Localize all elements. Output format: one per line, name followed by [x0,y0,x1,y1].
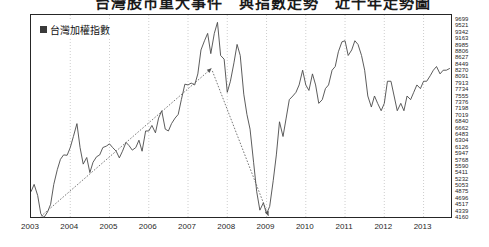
y-axis-tick: 9342 [455,29,468,35]
y-axis-tick: 8270 [455,67,468,73]
y-axis-tick: 7913 [455,80,468,86]
x-axis-labels: 2003200420052006200720082009201020112012… [0,222,489,236]
y-axis-tick: 4517 [455,201,468,207]
y-axis-tick: 5232 [455,176,468,182]
x-axis-tick: 2008 [217,222,235,232]
y-axis-tick: 8985 [455,42,468,48]
y-axis-tick: 9699 [455,16,468,22]
y-axis-tick: 6840 [455,118,468,124]
chart-title-strip: 台灣股市重大事件 與指數走勢 近十年走勢圖 [0,0,489,11]
y-axis-tick: 9521 [455,22,468,28]
x-axis-tick: 2007 [178,222,196,232]
x-axis-tick: 2006 [139,222,157,232]
y-axis-tick: 4696 [455,195,468,201]
y-axis-tick: 8627 [455,54,468,60]
y-axis-tick: 6126 [455,144,468,150]
plot-area: 台灣加權指數 [30,14,452,218]
x-axis-tick: 2004 [60,222,78,232]
x-axis-tick: 2012 [374,222,392,232]
x-axis-tick: 2010 [296,222,314,232]
chart-root: 台灣股市重大事件 與指數走勢 近十年走勢圖 台灣加權指數 96999521934… [0,0,489,247]
y-axis-tick: 5590 [455,163,468,169]
y-axis-tick: 7019 [455,112,468,118]
series-layer [31,15,453,219]
y-axis-tick: 9163 [455,35,468,41]
y-axis-tick: 5053 [455,182,468,188]
y-axis-tick: 4339 [455,208,468,214]
y-axis-tick: 7734 [455,86,468,92]
y-axis-tick: 7376 [455,99,468,105]
y-axis-tick: 5768 [455,157,468,163]
y-axis-tick: 8449 [455,61,468,67]
y-axis-tick: 8806 [455,48,468,54]
x-axis-tick: 2013 [414,222,432,232]
x-axis-tick: 2011 [335,222,352,232]
legend-label: 台灣加權指數 [50,22,110,37]
y-axis-tick: 8091 [455,73,468,79]
y-axis-tick: 7555 [455,93,468,99]
y-axis-tick: 6304 [455,137,468,143]
y-axis-tick: 6662 [455,125,468,131]
y-axis-labels: 9699952193429163898588068627844982708091… [455,14,489,220]
x-axis-tick: 2005 [100,222,118,232]
y-axis-tick: 7198 [455,105,468,111]
y-axis-tick: 4875 [455,188,468,194]
x-axis-tick: 2009 [257,222,275,232]
y-axis-tick: 6483 [455,131,468,137]
x-axis-tick: 2003 [21,222,39,232]
legend-swatch-icon [40,26,47,33]
y-axis-tick: 4160 [455,214,468,220]
y-axis-tick: 5411 [455,169,468,175]
y-axis-tick: 5947 [455,150,468,156]
legend: 台灣加權指數 [38,21,112,38]
page-title: 台灣股市重大事件 與指數走勢 近十年走勢圖 [95,0,431,11]
